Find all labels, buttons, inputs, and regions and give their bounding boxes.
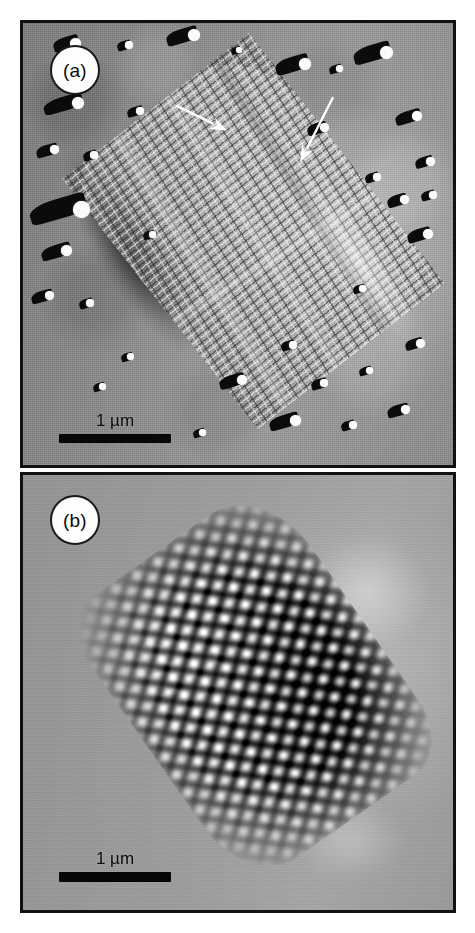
shadowed-particle	[219, 375, 255, 387]
shadowed-particle	[387, 195, 416, 206]
particle-highlight	[416, 339, 425, 348]
shadowed-particle	[387, 405, 418, 416]
panel-label-b-text: (b)	[63, 511, 87, 530]
shadowed-particle	[193, 429, 212, 437]
particle-highlight	[320, 379, 328, 387]
shadowed-particle	[231, 47, 247, 54]
shadowed-particle	[329, 65, 349, 73]
particle-highlight	[127, 353, 134, 360]
scalebar-b-label: 1 µm	[59, 850, 171, 867]
shadowed-particle	[275, 57, 321, 72]
panel-label-b: (b)	[50, 495, 100, 545]
shadowed-particle	[353, 45, 404, 61]
shadowed-particle	[405, 339, 432, 349]
particle-highlight	[423, 229, 433, 239]
shadowed-particle	[365, 173, 387, 182]
particle-highlight	[73, 201, 90, 218]
panel-b: (b) 1 µm	[20, 472, 456, 913]
shadowed-particle	[127, 107, 151, 116]
scalebar-b-bar	[59, 872, 171, 882]
panel-a: (a) 1 µm	[20, 20, 456, 468]
shadowed-particle	[311, 379, 335, 389]
particle-highlight	[349, 421, 357, 429]
scalebar-a: 1 µm	[59, 412, 171, 443]
particle-highlight	[426, 157, 435, 166]
particle-highlight	[188, 29, 200, 41]
particle-highlight	[99, 383, 106, 390]
particle-highlight	[199, 429, 206, 436]
particle-highlight	[125, 41, 133, 49]
shadowed-particle	[415, 157, 442, 167]
particle-highlight	[373, 173, 381, 181]
shadowed-particle	[407, 229, 441, 241]
panel-a-micrograph: (a) 1 µm	[23, 23, 453, 465]
shadowed-particle	[269, 415, 310, 428]
shadowed-particle	[353, 285, 372, 293]
shadowed-particle	[307, 123, 336, 134]
shadowed-particle	[117, 41, 139, 50]
particle-highlight	[299, 58, 311, 70]
particle-highlight	[336, 65, 343, 72]
shadowed-particle	[421, 191, 443, 200]
scalebar-a-bar	[59, 434, 171, 443]
particle-highlight	[401, 405, 410, 414]
shadowed-particle	[83, 151, 105, 160]
particle-highlight	[86, 299, 94, 307]
particle-highlight	[359, 285, 366, 292]
shadowed-particle	[36, 145, 67, 156]
shadowed-particle	[29, 199, 104, 219]
panel-b-micrograph: (b) 1 µm	[23, 475, 453, 910]
particle-highlight	[290, 415, 301, 426]
particle-highlight	[237, 375, 247, 385]
particle-highlight	[429, 191, 437, 199]
shadowed-particle	[31, 291, 62, 302]
shadowed-particle	[166, 29, 210, 43]
particle-highlight	[50, 145, 59, 154]
particle-highlight	[380, 46, 393, 59]
particle-highlight	[320, 123, 329, 132]
shadowed-particle	[359, 367, 379, 375]
particle-highlight	[236, 47, 242, 53]
panel-label-a-text: (a)	[63, 61, 87, 80]
shadowed-particle	[43, 97, 95, 111]
shadowed-particle	[143, 231, 162, 239]
shadowed-particle	[93, 383, 112, 391]
particle-highlight	[45, 291, 54, 300]
particle-highlight	[149, 231, 156, 238]
particle-highlight	[90, 151, 98, 159]
shadowed-particle	[395, 111, 431, 123]
figure-container: (a) 1 µm (b) 1 µm	[0, 0, 475, 933]
particle-highlight	[400, 195, 409, 204]
shadowed-particle	[41, 245, 82, 258]
shadowed-particle	[121, 353, 140, 361]
particle-highlight	[136, 107, 144, 115]
particle-highlight	[72, 97, 84, 109]
particle-highlight	[412, 111, 422, 121]
panel-label-a: (a)	[50, 45, 100, 95]
particle-highlight	[61, 245, 72, 256]
scalebar-a-label: 1 µm	[59, 412, 171, 429]
shadowed-particle	[341, 421, 363, 430]
particle-highlight	[366, 367, 373, 374]
shadowed-particle	[281, 341, 303, 350]
shadowed-particle	[79, 299, 101, 308]
particle-highlight	[289, 341, 297, 349]
scalebar-b: 1 µm	[59, 850, 171, 882]
